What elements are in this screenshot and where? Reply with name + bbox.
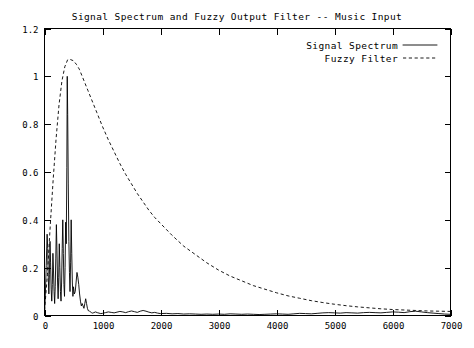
x-tick-label: 1000: [93, 321, 115, 331]
chart-legend: Signal SpectrumFuzzy Filter: [306, 40, 437, 64]
axis-frame: [45, 29, 451, 316]
x-axis-tick-labels: 01000200030004000500060007000: [43, 321, 463, 331]
x-tick-label: 0: [43, 321, 48, 331]
y-tick-label: 0.4: [22, 216, 38, 226]
legend-label-fuzzy-filter: Fuzzy Filter: [325, 53, 398, 64]
data-series-group: [45, 60, 451, 316]
y-axis-tick-labels: 00.20.40.60.811.2: [22, 25, 38, 322]
series-line-fuzzy-filter: [45, 60, 451, 312]
y-tick-label: 0.8: [22, 120, 38, 130]
y-tick-label: 0: [33, 312, 38, 322]
x-axis-ticks: [46, 29, 452, 316]
y-tick-label: 0.2: [22, 264, 38, 274]
x-tick-label: 7000: [441, 321, 463, 331]
series-line-signal-spectrum: [45, 76, 451, 315]
chart-container: Signal Spectrum and Fuzzy Output Filter …: [0, 0, 474, 348]
y-tick-label: 0.6: [22, 168, 38, 178]
y-tick-label: 1: [33, 72, 38, 82]
y-axis-ticks: [45, 30, 451, 317]
x-tick-label: 2000: [151, 321, 173, 331]
x-tick-label: 4000: [267, 321, 289, 331]
signal-spectrum-chart: Signal Spectrum and Fuzzy Output Filter …: [0, 0, 474, 348]
legend-label-signal-spectrum: Signal Spectrum: [306, 40, 398, 51]
x-tick-label: 5000: [325, 321, 347, 331]
x-tick-label: 6000: [383, 321, 405, 331]
x-tick-label: 3000: [209, 321, 231, 331]
y-tick-label: 1.2: [22, 25, 38, 35]
chart-title: Signal Spectrum and Fuzzy Output Filter …: [72, 11, 402, 22]
